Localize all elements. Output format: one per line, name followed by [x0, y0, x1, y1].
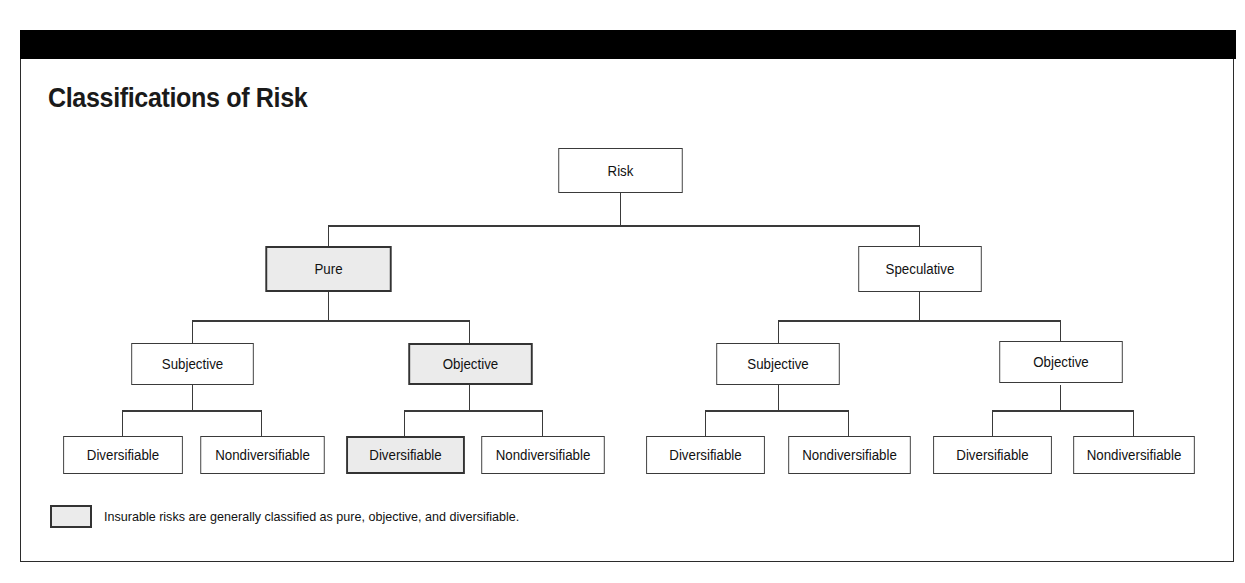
- node-pure-subjective-nondiversifiable[interactable]: Nondiversifiable: [200, 436, 324, 474]
- node-speculative-objective-nondiversifiable[interactable]: Nondiversifiable: [1073, 436, 1195, 474]
- node-pure-subjective-diversifiable[interactable]: Diversifiable: [63, 436, 183, 474]
- node-label: Diversifiable: [369, 448, 441, 462]
- node-label: Speculative: [886, 262, 955, 276]
- node-label: Objective: [1033, 355, 1088, 369]
- node-label: Nondiversifiable: [802, 448, 897, 462]
- node-label: Diversifiable: [956, 448, 1028, 462]
- node-pure-objective-nondiversifiable[interactable]: Nondiversifiable: [481, 436, 605, 474]
- node-pure-objective[interactable]: Objective: [408, 343, 532, 385]
- legend: Insurable risks are generally classified…: [50, 505, 550, 528]
- page-title: Classifications of Risk: [48, 83, 307, 114]
- node-label: Nondiversifiable: [496, 448, 591, 462]
- node-label: Subjective: [162, 357, 223, 371]
- node-speculative-subjective-nondiversifiable[interactable]: Nondiversifiable: [788, 436, 911, 474]
- node-speculative-objective[interactable]: Objective: [999, 341, 1123, 383]
- header-bar: [20, 30, 1236, 59]
- node-label: Subjective: [747, 357, 808, 371]
- node-speculative-objective-diversifiable[interactable]: Diversifiable: [933, 436, 1052, 474]
- node-pure-objective-diversifiable[interactable]: Diversifiable: [346, 436, 465, 474]
- legend-swatch-shaded: [50, 505, 92, 528]
- node-risk[interactable]: Risk: [558, 148, 682, 193]
- node-pure-subjective[interactable]: Subjective: [131, 343, 254, 385]
- node-label: Diversifiable: [669, 448, 741, 462]
- node-label: Risk: [608, 164, 634, 178]
- figure-root: Classifications of Risk: [0, 0, 1245, 583]
- node-pure[interactable]: Pure: [265, 246, 391, 292]
- node-speculative-subjective-diversifiable[interactable]: Diversifiable: [646, 436, 765, 474]
- node-speculative[interactable]: Speculative: [858, 246, 982, 292]
- node-label: Objective: [443, 357, 498, 371]
- node-label: Pure: [314, 262, 342, 276]
- legend-text: Insurable risks are generally classified…: [104, 509, 519, 524]
- node-speculative-subjective[interactable]: Subjective: [716, 343, 840, 385]
- node-label: Nondiversifiable: [1087, 448, 1182, 462]
- node-label: Nondiversifiable: [215, 448, 310, 462]
- node-label: Diversifiable: [87, 448, 159, 462]
